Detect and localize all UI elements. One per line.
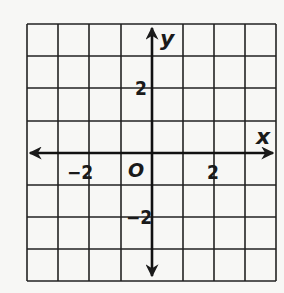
coordinate-plane — [0, 0, 284, 293]
y-axis-label: y — [160, 28, 174, 50]
y-tick-label-neg2: −2 — [126, 208, 152, 227]
x-tick-label-pos2: 2 — [207, 163, 219, 182]
origin-label: O — [128, 161, 144, 180]
x-axis-label: x — [256, 126, 270, 148]
y-tick-label-pos2: 2 — [135, 79, 147, 98]
x-tick-label-neg2: −2 — [67, 163, 93, 182]
